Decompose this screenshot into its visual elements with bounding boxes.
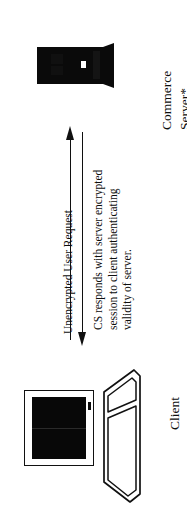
client-label: Client (168, 397, 182, 430)
response-flow-label-line1: CS responds with server encrypted (92, 170, 104, 330)
keyboard-outline-icon (90, 366, 144, 506)
response-flow-label-line2: session to client authenticating (107, 170, 119, 330)
keyboard-main-key-block (108, 406, 136, 496)
commerce-server-label: Commerce Server* (160, 71, 187, 130)
response-arrowhead-icon (78, 332, 86, 346)
response-flow-label-line3: validity of server. (121, 170, 133, 330)
commerce-server-icon (37, 43, 119, 88)
server-front-bezel (103, 43, 114, 88)
diagram-canvas: Commerce Server* Unencrypted User Reques… (0, 0, 187, 526)
request-flow-label: Unencrypted User Request (62, 210, 74, 334)
client-computer-icon (24, 366, 144, 506)
server-side-panel-seam (93, 51, 100, 79)
server-vent-lower (51, 66, 63, 75)
commerce-server-label-line2: Server* (178, 71, 187, 130)
commerce-server-label-line1: Commerce (159, 71, 174, 130)
monitor-screen-seam (32, 428, 86, 429)
response-arrow-shaft (82, 132, 83, 334)
response-flow-label: CS responds with server encrypted sessio… (92, 170, 136, 330)
server-drive-slot (81, 61, 86, 68)
server-vent-upper (51, 54, 63, 64)
